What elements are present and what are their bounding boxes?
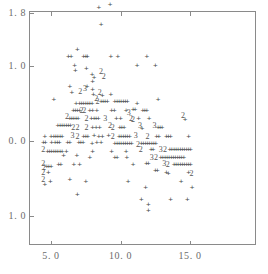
x-axis-tick-top [121,12,122,16]
x-axis-tick-label: 5. 0 [33,251,69,261]
data-point-marker: + [106,1,114,9]
y-axis-tick [30,141,34,142]
x-axis-tick-label: 10. 0 [103,251,139,261]
y-axis-tick-label: 0. 0 [0,136,26,146]
y-axis-tick-label: 1. 0 [0,211,26,221]
x-axis-tick-top [51,12,52,16]
y-axis-tick-label: 1. 0 [0,61,26,71]
y-axis-tick [30,216,34,217]
y-axis-tick [30,66,34,67]
x-axis-tick [51,241,52,245]
x-axis-tick [121,241,122,245]
y-axis-tick-top [30,13,34,14]
x-axis-tick [190,241,191,245]
scatter-plot-figure: +++++++++++++++++22+++++23+++2+++22+++++… [0,0,268,274]
y-axis-tick-label: 1. 8 [0,8,26,18]
x-axis-tick-top [190,12,191,16]
x-axis-tick-label: 15. 0 [172,251,208,261]
plot-frame [29,11,256,245]
